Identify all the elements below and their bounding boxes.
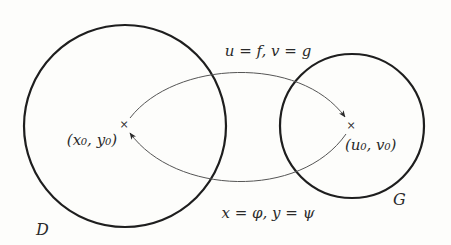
point-p0-label: (x₀, y₀) <box>67 131 117 149</box>
forward-mapping-label: u = f, v = g <box>225 42 312 60</box>
forward-mapping-arrow <box>130 72 345 118</box>
region-g-label: G <box>393 190 406 209</box>
mapping-diagram: × × (x₀, y₀) (u₀, v₀) u = f, v = g x = φ… <box>0 0 451 245</box>
inverse-mapping-arrow <box>130 133 346 182</box>
point-q0-marker-icon: × <box>346 119 355 132</box>
point-p0-marker-icon: × <box>119 118 128 131</box>
point-q0-label: (u₀, v₀) <box>345 136 397 154</box>
inverse-mapping-label: x = φ, y = ψ <box>222 204 315 222</box>
region-d-label: D <box>35 220 49 239</box>
